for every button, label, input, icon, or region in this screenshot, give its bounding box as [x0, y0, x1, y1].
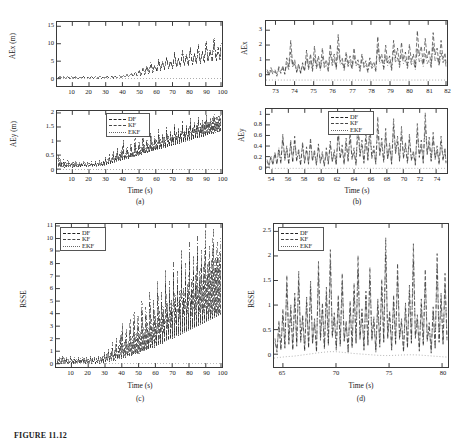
legend-label-ekf: EKF	[350, 127, 362, 134]
xtick-b-bottom-70: 70	[396, 176, 412, 183]
xtick-a-top-10: 10	[63, 89, 80, 96]
xtick-a-top-30: 30	[97, 89, 114, 96]
xtick-c-50: 50	[130, 370, 147, 377]
ytick-d-2p5: 2.5	[245, 227, 271, 234]
xtick-d-70: 70	[328, 370, 344, 377]
xtick-b-top-76: 76	[324, 88, 341, 95]
xtick-c-10: 10	[62, 370, 79, 377]
panel-c: RSSE	[0, 205, 230, 420]
legend-a-bottom: DF KF EKF	[106, 113, 150, 137]
xtick-b-bottom-60: 60	[313, 176, 329, 183]
ytick-c-2: 2	[29, 336, 53, 343]
legend-d: DF KF EKF	[278, 227, 324, 251]
ytick-a-top-15: 15	[30, 22, 54, 29]
ytick-c-3: 3	[29, 323, 53, 330]
ytick-c-0: 0	[29, 361, 53, 368]
xtick-b-bottom-64: 64	[346, 176, 362, 183]
ytick-c-8: 8	[29, 260, 53, 267]
xtick-b-top-77: 77	[344, 88, 361, 95]
xtick-c-20: 20	[79, 370, 96, 377]
axis-label-time-d: Time (s)	[331, 381, 391, 390]
ytick-a-top-0: 0	[30, 76, 54, 83]
xtick-a-top-100: 100	[213, 89, 232, 96]
xtick-a-bottom-50: 50	[131, 176, 148, 183]
subcaption-c: (c)	[120, 394, 160, 403]
ytick-c-4: 4	[29, 310, 53, 317]
ytick-d-2: 2	[245, 252, 271, 259]
legend-row-ekf: EKF	[109, 129, 147, 136]
ytick-c-5: 5	[29, 298, 53, 305]
legend-row-ekf: EKF	[281, 243, 321, 250]
axis-label-time-a: Time (s)	[110, 186, 170, 195]
ytick-a-bottom-1: 1	[28, 138, 54, 145]
xtick-c-70: 70	[164, 370, 181, 377]
xtick-b-top-80: 80	[401, 88, 418, 95]
xtick-c-100: 100	[213, 370, 232, 377]
xtick-b-top-81: 81	[421, 88, 438, 95]
figure-caption-label: FIGURE 11.12	[14, 431, 67, 439]
ytick-c-9: 9	[29, 247, 53, 254]
series-d	[274, 238, 448, 358]
xtick-a-top-60: 60	[148, 89, 165, 96]
xtick-a-bottom-100: 100	[213, 176, 232, 183]
legend-label-ekf: EKF	[128, 129, 140, 136]
panel-d: RSSE 2.5 2 1.5	[231, 205, 461, 420]
subcaption-d: (d)	[341, 394, 381, 403]
xtick-a-top-40: 40	[114, 89, 131, 96]
ytick-b-top-2: 2	[245, 41, 262, 48]
axis-label-time-b: Time (s)	[327, 186, 387, 195]
series-a-top	[57, 38, 222, 79]
legend-label-ekf: EKF	[300, 243, 312, 250]
ytick-d-0: 0	[245, 352, 271, 359]
xtick-b-top-78: 78	[363, 88, 380, 95]
legend-row-ekf: EKF	[63, 243, 103, 250]
xtick-b-bottom-54: 54	[263, 176, 279, 183]
ytick-b-bottom-0p2: 0.2	[241, 154, 262, 161]
ytick-a-bottom-0: 0	[28, 167, 54, 174]
xtick-b-top-82: 82	[439, 88, 456, 95]
xtick-b-top-74: 74	[286, 88, 303, 95]
xtick-b-top-75: 75	[305, 88, 322, 95]
plot-a-top-canvas	[57, 22, 222, 86]
tick-marks-a-top	[57, 22, 221, 86]
ytick-b-bottom-0: 0	[241, 165, 262, 172]
ytick-c-11: 11	[29, 222, 53, 229]
legend-label-ekf: EKF	[82, 243, 94, 250]
xtick-a-bottom-80: 80	[181, 176, 198, 183]
ytick-a-top-5: 5	[30, 58, 54, 65]
axis-label-rsse-c: RSSE	[20, 276, 28, 322]
xtick-a-top-20: 20	[80, 89, 97, 96]
xtick-c-30: 30	[96, 370, 113, 377]
xtick-a-bottom-30: 30	[97, 176, 114, 183]
xtick-a-top-70: 70	[164, 89, 181, 96]
xtick-b-bottom-62: 62	[329, 176, 345, 183]
axis-label-aey-m: AEy (m)	[10, 107, 18, 161]
xtick-b-bottom-72: 72	[412, 176, 428, 183]
legend-b-bottom: DF KF EKF	[328, 111, 374, 135]
plot-a-top	[56, 21, 223, 87]
xtick-b-top-73: 73	[267, 88, 284, 95]
ytick-c-6: 6	[29, 285, 53, 292]
xtick-a-top-50: 50	[131, 89, 148, 96]
xtick-b-bottom-66: 66	[363, 176, 379, 183]
xtick-c-60: 60	[147, 370, 164, 377]
legend-c: DF KF EKF	[60, 227, 106, 251]
ytick-d-1: 1	[245, 302, 271, 309]
ytick-b-top-1: 1	[245, 56, 262, 63]
xtick-d-75: 75	[381, 370, 397, 377]
figure-root: AEx (m)	[0, 0, 461, 439]
series-b-top	[266, 31, 447, 80]
xtick-c-40: 40	[113, 370, 130, 377]
xtick-a-top-80: 80	[181, 89, 198, 96]
axis-label-time-c: Time (s)	[110, 381, 170, 390]
ytick-a-bottom-2: 2	[28, 109, 54, 116]
ytick-c-10: 10	[29, 235, 53, 242]
xtick-a-bottom-60: 60	[148, 176, 165, 183]
ytick-c-7: 7	[29, 273, 53, 280]
xtick-d-80: 80	[435, 370, 451, 377]
xtick-a-bottom-40: 40	[114, 176, 131, 183]
ytick-a-bottom-0p5: 0.5	[28, 152, 54, 159]
xtick-a-bottom-20: 20	[80, 176, 97, 183]
panel-b: AEx	[231, 0, 461, 205]
xtick-b-bottom-74: 74	[429, 176, 445, 183]
